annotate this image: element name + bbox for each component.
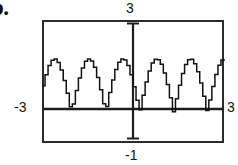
part-label: b. xyxy=(0,0,9,19)
axis-label-y-min: -1 xyxy=(125,148,137,162)
graph-figure: b. 3 -3 3 -1 xyxy=(0,0,238,165)
plot-area xyxy=(42,20,224,143)
axis-label-x-max: 3 xyxy=(227,100,235,114)
axis-label-y-max: 3 xyxy=(126,1,134,15)
axis-label-x-min: -3 xyxy=(14,100,26,114)
